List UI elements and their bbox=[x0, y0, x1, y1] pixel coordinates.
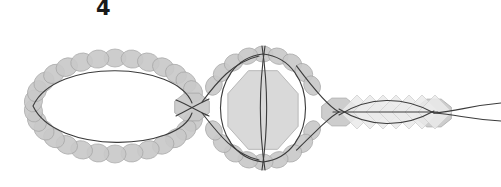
center-octagon-shape bbox=[228, 71, 298, 150]
center-octagon bbox=[228, 71, 298, 150]
curve-diagram bbox=[0, 0, 501, 187]
figure-container: 4 bbox=[0, 0, 501, 187]
